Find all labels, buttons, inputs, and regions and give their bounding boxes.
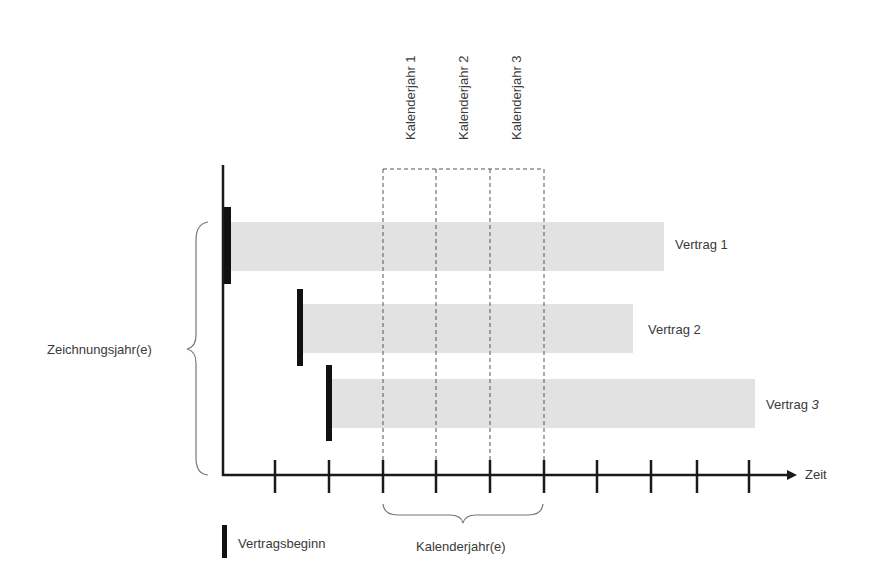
diagram-graphics — [0, 0, 874, 587]
calendar-year-label-3: Kalenderjahr 3 — [509, 55, 524, 140]
contract-label-2: Vertrag 2 — [648, 322, 701, 337]
contract-start-marker-1 — [224, 207, 231, 284]
bottom-brace — [383, 504, 543, 523]
legend-label: Vertragsbeginn — [238, 536, 325, 551]
contract-bar-2 — [303, 304, 633, 353]
left-brace-label: Zeichnungsjahr(e) — [47, 342, 152, 357]
diagram-canvas: Kalenderjahr 1 Kalenderjahr 2 Kalenderja… — [0, 0, 874, 587]
contract-label-3: Vertrag 3 — [766, 397, 819, 412]
contract-start-marker-2 — [297, 289, 303, 366]
calendar-year-label-2: Kalenderjahr 2 — [456, 55, 471, 140]
x-axis-label: Zeit — [805, 467, 827, 482]
contract-label-1: Vertrag 1 — [675, 237, 728, 252]
contract-start-marker-3 — [326, 365, 332, 441]
bottom-brace-label: Kalenderjahr(e) — [416, 539, 506, 554]
x-axis-arrow-icon — [787, 470, 797, 480]
contract-bar-1 — [231, 222, 664, 271]
x-axis-ticks — [275, 460, 749, 493]
calendar-year-label-1: Kalenderjahr 1 — [403, 55, 418, 140]
left-brace — [187, 222, 208, 475]
legend-marker-icon — [222, 525, 227, 558]
